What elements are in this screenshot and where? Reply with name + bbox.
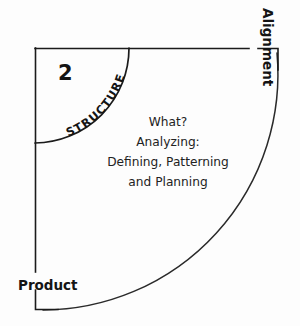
quadrant-number: 2 — [58, 61, 73, 85]
quadrant-diagram-svg: 2 STRUCTURE Alignment Product What? Anal… — [0, 0, 300, 326]
axis-label-alignment: Alignment — [260, 8, 276, 87]
center-text-line-4: and Planning — [128, 175, 207, 189]
center-text-line-2: Analyzing: — [136, 135, 199, 149]
center-text-line-3: Defining, Patterning — [107, 155, 229, 169]
center-description-block: What? Analyzing: Defining, Patterning an… — [107, 115, 229, 189]
center-text-line-1: What? — [149, 115, 188, 129]
axis-label-product: Product — [18, 277, 78, 293]
structure-arc-label: STRUCTURE — [64, 71, 128, 139]
structure-arc-label-text: STRUCTURE — [64, 71, 128, 139]
diagram-canvas: 2 STRUCTURE Alignment Product What? Anal… — [0, 0, 300, 326]
